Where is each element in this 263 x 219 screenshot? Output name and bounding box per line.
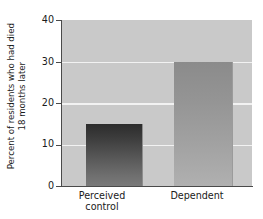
x-tick-label-perceived-control-line-2: control <box>58 201 146 212</box>
x-axis-line <box>61 186 253 187</box>
y-tick-label-10: 10 <box>32 139 54 149</box>
y-axis-title-line-1: Percent of residents who had died <box>6 23 17 169</box>
bar-dependent <box>174 62 233 187</box>
y-tick-label-0: 0 <box>32 181 54 191</box>
bar-perceived-control <box>86 124 143 186</box>
x-tick-label-perceived-control: Perceived control <box>58 190 146 213</box>
x-tick-label-perceived-control-line-1: Perceived <box>58 190 146 201</box>
x-tick-label-dependent-line-1: Dependent <box>148 190 246 201</box>
y-tick-label-20: 20 <box>32 98 54 108</box>
bar-chart-figure: Percent of residents who had died 18 mon… <box>0 0 263 219</box>
y-tick-label-40: 40 <box>32 15 54 25</box>
y-tick-label-30: 30 <box>32 57 54 67</box>
y-axis-title: Percent of residents who had died 18 mon… <box>0 0 34 192</box>
plot-area <box>62 20 252 186</box>
x-tick-label-dependent: Dependent <box>148 190 246 201</box>
y-axis-title-line-2: 18 months later <box>17 23 28 169</box>
